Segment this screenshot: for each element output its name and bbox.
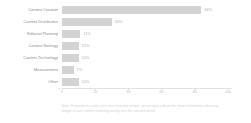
x-axis-tick-label: 0 <box>61 91 63 95</box>
bar[interactable] <box>62 6 201 14</box>
bar[interactable] <box>62 18 112 26</box>
category-label: Editorial Planning <box>0 32 58 36</box>
bar[interactable] <box>62 54 79 62</box>
x-axis-tick-label: 100 <box>225 91 231 95</box>
bar-track: 7% <box>62 64 251 75</box>
plot-area: Content Creation 84% Content Distributio… <box>0 0 251 88</box>
bar-value-label: 7% <box>77 68 83 72</box>
x-axis-start-cap <box>58 88 61 89</box>
chart-row: Measurement 7% <box>0 64 251 75</box>
bar[interactable] <box>62 78 79 86</box>
category-label: Content Technology <box>0 56 58 60</box>
bar-value-label: 30% <box>115 20 123 24</box>
bar-track: 10% <box>62 40 251 51</box>
bar-value-label: 10% <box>82 80 90 84</box>
x-axis-tick-label: 20 <box>93 91 97 95</box>
x-axis-end-cap <box>229 88 232 89</box>
chart-footnote: Note: Respondents could select more than… <box>62 104 230 114</box>
category-label: Content Strategy <box>0 44 58 48</box>
bar[interactable] <box>62 30 80 38</box>
bar-track: 11% <box>62 28 251 39</box>
chart-row: Content Strategy 10% <box>0 40 251 51</box>
bar-chart: Content Creation 84% Content Distributio… <box>0 0 251 123</box>
footnote-line-2: budget to each content marketing activit… <box>62 109 230 114</box>
x-axis-line <box>62 88 228 89</box>
bar-track: 10% <box>62 52 251 63</box>
category-label: Content Distribution <box>0 20 58 24</box>
bar-track: 30% <box>62 16 251 27</box>
chart-row: Other 10% <box>0 76 251 87</box>
x-axis-tick-label: 80 <box>193 91 197 95</box>
chart-row: Content Creation 84% <box>0 4 251 15</box>
category-label: Other <box>0 80 58 84</box>
chart-row: Editorial Planning 11% <box>0 28 251 39</box>
x-axis-tick-label: 40 <box>126 91 130 95</box>
category-label: Content Creation <box>0 8 58 12</box>
bar-value-label: 11% <box>83 32 91 36</box>
bar-value-label: 10% <box>82 56 90 60</box>
bar[interactable] <box>62 66 74 74</box>
bar-value-label: 84% <box>204 8 212 12</box>
bar[interactable] <box>62 42 79 50</box>
category-label: Measurement <box>0 68 58 72</box>
chart-row: Content Distribution 30% <box>0 16 251 27</box>
bar-track: 10% <box>62 76 251 87</box>
bar-track: 84% <box>62 4 251 15</box>
chart-row: Content Technology 10% <box>0 52 251 63</box>
x-axis-tick-label: 60 <box>160 91 164 95</box>
bar-value-label: 10% <box>82 44 90 48</box>
